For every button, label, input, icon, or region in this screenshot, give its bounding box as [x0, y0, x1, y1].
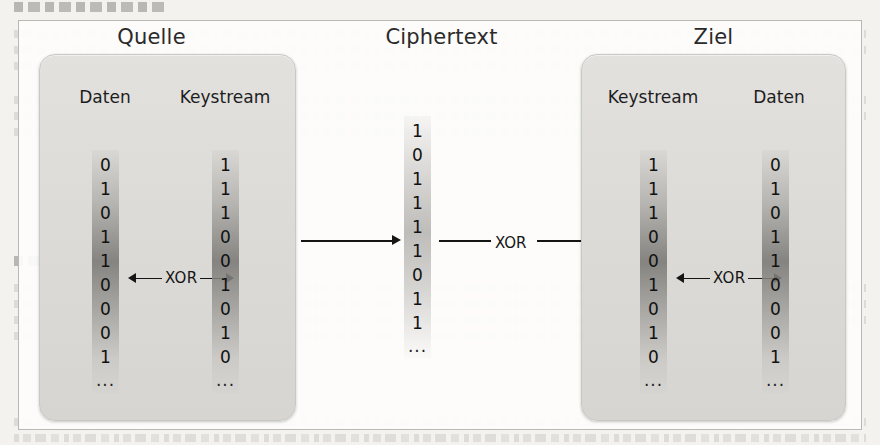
bit: 1: [412, 287, 423, 311]
bit: 1: [648, 321, 659, 345]
bit: 1: [770, 225, 781, 249]
transfer-arrow-source-to-ciphertext: [301, 235, 401, 246]
target-xor-label: XOR: [713, 269, 745, 287]
bit: 0: [100, 321, 111, 345]
bit: 1: [100, 177, 111, 201]
bit-ellipsis: ...: [96, 369, 115, 391]
bit: 0: [648, 345, 659, 369]
bit: 1: [770, 345, 781, 369]
arrow-left-icon: [128, 273, 162, 284]
bit: 0: [100, 153, 111, 177]
bit: 0: [412, 263, 423, 287]
bit: 1: [100, 225, 111, 249]
bit: 0: [220, 345, 231, 369]
bit: 0: [648, 297, 659, 321]
target-title: Ziel: [581, 25, 846, 49]
bit: 1: [220, 177, 231, 201]
bit: 0: [648, 225, 659, 249]
bit: 0: [220, 225, 231, 249]
target-daten-header: Daten: [724, 87, 834, 107]
bit: 1: [220, 273, 231, 297]
bit: 0: [770, 153, 781, 177]
bit: 0: [770, 201, 781, 225]
bit: 1: [648, 177, 659, 201]
bit: 1: [412, 239, 423, 263]
source-panel: Daten Keystream 0 1 0 1 1 0 0 0 1 ... XO…: [39, 54, 296, 421]
bit: 1: [412, 119, 423, 143]
source-daten-header: Daten: [50, 87, 160, 107]
source-keystream-bit-column: 1 1 1 0 0 1 0 1 0 ...: [212, 150, 239, 393]
bit-ellipsis: ...: [216, 369, 235, 391]
bit: 1: [648, 273, 659, 297]
bit: 0: [220, 297, 231, 321]
target-keystream-header: Keystream: [588, 87, 718, 107]
xor-stream-cipher-figure: Quelle Ciphertext Ziel Daten Keystream 0…: [18, 20, 862, 430]
arrow-left-icon: [676, 273, 710, 284]
bit: 0: [100, 297, 111, 321]
bit: 0: [770, 297, 781, 321]
ciphertext-title: Ciphertext: [309, 25, 574, 49]
background-text-line: [14, 2, 164, 12]
bit: 1: [770, 177, 781, 201]
bit-ellipsis: ...: [766, 369, 785, 391]
bit-ellipsis: ...: [644, 369, 663, 391]
target-daten-bit-column: 0 1 0 1 1 0 0 0 1 ...: [762, 150, 789, 393]
target-panel: Keystream Daten 1 1 1 0 0 1 0 1 0 ... XO…: [581, 54, 846, 421]
bit: 1: [412, 311, 423, 335]
transfer-line-ciphertext-left: [439, 235, 491, 246]
source-title: Quelle: [19, 25, 284, 49]
bit: 0: [770, 321, 781, 345]
ciphertext-bit-column: 1 0 1 1 1 1 0 1 1 ...: [404, 116, 431, 359]
bit: 1: [220, 321, 231, 345]
bit: 1: [220, 201, 231, 225]
bit: 1: [648, 153, 659, 177]
bit: 1: [100, 249, 111, 273]
bit: 1: [412, 167, 423, 191]
source-daten-bit-column: 0 1 0 1 1 0 0 0 1 ...: [92, 150, 119, 393]
bit: 0: [100, 273, 111, 297]
target-keystream-bit-column: 1 1 1 0 0 1 0 1 0 ...: [640, 150, 667, 393]
bit: 1: [220, 153, 231, 177]
bit: 0: [770, 273, 781, 297]
background-text-line: [14, 434, 866, 442]
bit-ellipsis: ...: [408, 335, 427, 357]
bit: 1: [100, 345, 111, 369]
bit: 1: [412, 191, 423, 215]
bit: 0: [220, 249, 231, 273]
bit: 1: [648, 201, 659, 225]
middle-xor-label: XOR: [495, 234, 527, 252]
bit: 1: [770, 249, 781, 273]
bit: 0: [100, 201, 111, 225]
source-xor-label: XOR: [165, 269, 197, 287]
source-keystream-header: Keystream: [160, 87, 290, 107]
bit: 1: [412, 215, 423, 239]
bit: 0: [412, 143, 423, 167]
bit: 0: [648, 249, 659, 273]
